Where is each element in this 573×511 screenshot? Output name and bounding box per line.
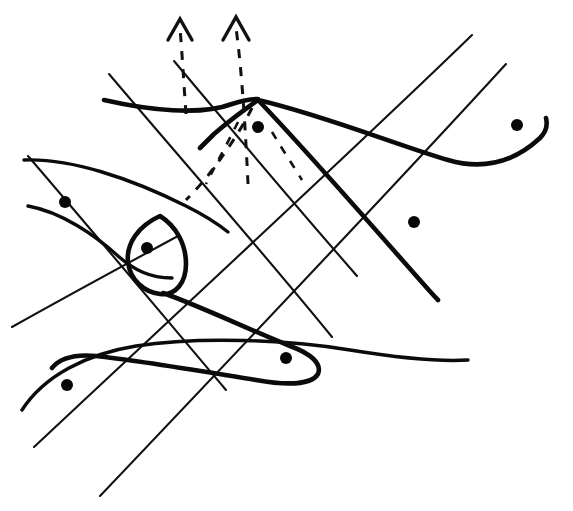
marked-point-dot	[280, 352, 292, 364]
marked-point-dot	[141, 242, 153, 254]
marked-point-dot	[511, 119, 523, 131]
marked-point-dot	[59, 196, 71, 208]
marked-point-dot	[408, 216, 420, 228]
marked-point-dot	[252, 121, 264, 133]
figure-canvas: Hand-drawn fold/cusp caustic diagram Pen…	[0, 0, 573, 511]
hand-drawn-diagram	[0, 0, 573, 511]
paper-background	[0, 0, 573, 511]
marked-point-dot	[61, 379, 73, 391]
